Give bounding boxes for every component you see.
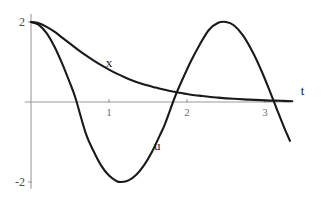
axis-label-t: t <box>301 83 305 98</box>
x-tick-label-2: 2 <box>184 106 190 118</box>
plot-figure: 123 2-2 xut <box>0 0 323 203</box>
curve-label-x: x <box>106 55 113 70</box>
y-tick-label--2: -2 <box>15 175 25 189</box>
y-tick-label-2: 2 <box>19 15 25 29</box>
x-tick-label-3: 3 <box>262 106 268 118</box>
curve-series-x <box>31 22 292 101</box>
plot-canvas: 123 2-2 xut <box>0 0 323 203</box>
curve-label-u: u <box>154 138 161 153</box>
x-tick-label-1: 1 <box>106 106 112 118</box>
